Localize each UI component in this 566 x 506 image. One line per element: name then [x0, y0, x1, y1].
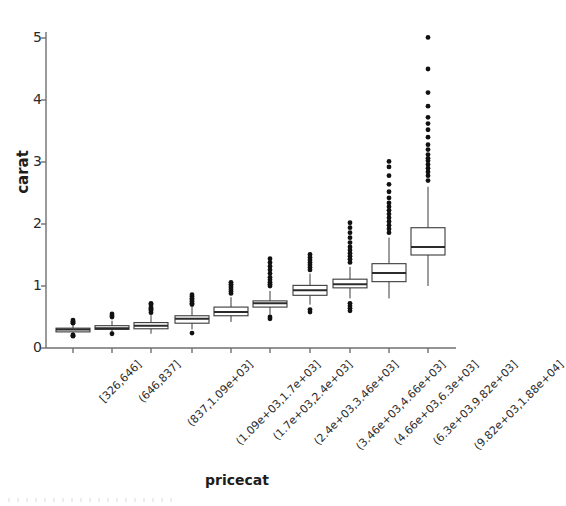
boxplot-group — [253, 256, 287, 321]
outlier-point — [426, 121, 431, 126]
outlier-point — [308, 310, 313, 315]
outlier-point — [426, 127, 431, 132]
scan-artifact — [8, 498, 178, 502]
boxplot-group — [214, 280, 248, 322]
outlier-point — [426, 90, 431, 95]
box-iqr — [411, 228, 445, 255]
boxplot-group — [333, 220, 367, 313]
outlier-point — [387, 182, 392, 187]
outlier-point — [71, 334, 76, 339]
outlier-point — [308, 252, 313, 257]
outlier-point — [387, 165, 392, 170]
outlier-point — [426, 135, 431, 140]
outlier-point — [348, 225, 353, 230]
outlier-point — [268, 256, 273, 261]
outlier-point — [387, 196, 392, 201]
x-axis-label: pricecat — [0, 472, 474, 488]
outlier-point — [387, 173, 392, 178]
outlier-point — [229, 280, 234, 285]
outlier-point — [190, 292, 195, 297]
outlier-point — [426, 152, 431, 157]
outlier-point — [71, 318, 76, 323]
outlier-point — [426, 142, 431, 147]
outlier-point — [387, 189, 392, 194]
boxplot-group — [411, 35, 445, 286]
outlier-point — [426, 115, 431, 120]
outlier-point — [268, 316, 273, 321]
outlier-point — [348, 308, 353, 313]
outlier-point — [348, 230, 353, 235]
outlier-point — [110, 312, 115, 317]
outlier-point — [149, 301, 154, 306]
boxplot-group — [95, 312, 129, 337]
outlier-point — [426, 67, 431, 72]
outlier-point — [426, 104, 431, 109]
boxplot-group — [293, 252, 327, 314]
boxplot-group — [56, 318, 90, 339]
outlier-point — [348, 245, 353, 250]
outlier-point — [387, 159, 392, 164]
outlier-point — [190, 331, 195, 336]
outlier-point — [426, 147, 431, 152]
outlier-point — [110, 331, 115, 336]
x-tick-label: (9.82e+03,1.88e+04] — [471, 358, 566, 453]
boxplot-group — [372, 159, 406, 298]
outlier-point — [348, 235, 353, 240]
boxplot-group — [175, 292, 209, 335]
outlier-point — [426, 178, 431, 183]
boxplot-group — [134, 301, 168, 334]
outlier-point — [348, 240, 353, 245]
outlier-point — [348, 220, 353, 225]
outlier-point — [426, 35, 431, 40]
outlier-point — [387, 201, 392, 206]
